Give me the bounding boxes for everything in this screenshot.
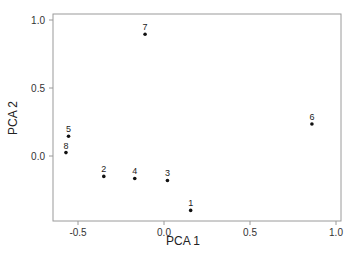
x-axis-title: PCA 1: [166, 234, 200, 248]
point-label: 4: [132, 166, 137, 176]
x-tick-label: -0.5: [69, 227, 87, 238]
point-marker: [64, 151, 68, 155]
x-tick-label: 1.0: [329, 227, 343, 238]
point-label: 3: [165, 168, 170, 178]
data-point-4: 4: [132, 166, 137, 180]
point-marker: [133, 177, 137, 181]
x-tick-label: 0.5: [243, 227, 257, 238]
y-tick-label: 0.5: [31, 83, 45, 94]
point-label: 8: [63, 141, 68, 151]
point-marker: [102, 175, 106, 179]
data-point-1: 1: [188, 198, 193, 212]
point-label: 6: [309, 112, 314, 122]
point-marker: [67, 134, 71, 138]
y-tick-label: 1.0: [31, 15, 45, 26]
y-axis-ticks: 0.00.51.0: [31, 15, 53, 162]
data-point-7: 7: [143, 22, 148, 36]
x-axis-ticks: -0.50.00.51.0: [69, 221, 343, 238]
data-point-8: 8: [63, 141, 68, 155]
data-point-3: 3: [165, 168, 170, 182]
point-label: 1: [188, 198, 193, 208]
point-marker: [166, 179, 170, 183]
data-point-6: 6: [309, 112, 314, 126]
point-marker: [143, 32, 147, 36]
point-marker: [310, 122, 314, 126]
pca-scatter-plot: -0.50.00.51.0 0.00.51.0 12345678 PCA 1 P…: [0, 0, 355, 263]
y-tick-label: 0.0: [31, 151, 45, 162]
plot-frame: [53, 14, 341, 221]
data-points: 12345678: [63, 22, 314, 212]
point-label: 2: [101, 164, 106, 174]
point-marker: [189, 209, 193, 213]
data-point-5: 5: [66, 124, 71, 138]
y-axis-title: PCA 2: [6, 101, 20, 135]
point-label: 5: [66, 124, 71, 134]
data-point-2: 2: [101, 164, 106, 178]
point-label: 7: [143, 22, 148, 32]
